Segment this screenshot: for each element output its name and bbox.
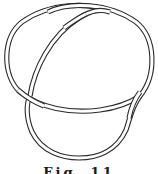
knot-strand-right-lobe	[27, 5, 152, 158]
figure-caption: Fig. 11	[0, 166, 158, 174]
crossing-right-over	[129, 92, 140, 118]
crossing-top-over	[64, 14, 86, 28]
trefoil-knot-figure: Fig. 11	[0, 0, 158, 174]
trefoil-knot-diagram	[0, 0, 158, 174]
